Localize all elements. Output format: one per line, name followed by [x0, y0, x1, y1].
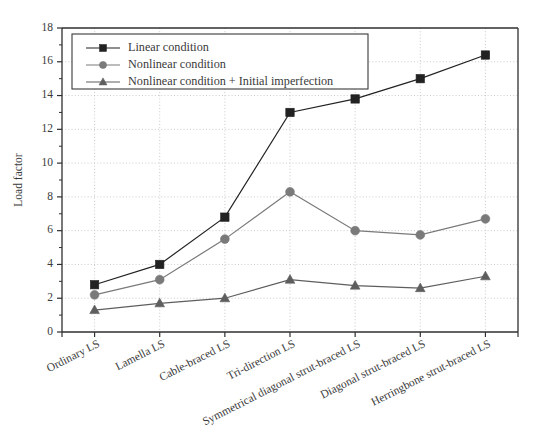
- y-tick-label: 4: [47, 257, 53, 269]
- y-tick-label: 0: [47, 325, 53, 337]
- data-point-marker: [90, 281, 98, 289]
- legend-label-3: Nonlinear condition + Initial imperfecti…: [128, 74, 333, 88]
- data-point-marker: [416, 74, 424, 82]
- data-point-marker: [100, 45, 107, 52]
- y-tick-label: 10: [42, 156, 54, 168]
- load-factor-line-chart: 024681012141618 Load factor Ordinary LSL…: [0, 0, 541, 440]
- data-point-marker: [481, 51, 489, 59]
- data-point-marker: [351, 95, 359, 103]
- legend-label-1: Linear condition: [128, 40, 209, 54]
- data-point-marker: [99, 61, 106, 68]
- data-point-marker: [155, 275, 164, 284]
- y-axis-title: Load factor: [12, 153, 24, 206]
- data-point-marker: [221, 213, 229, 221]
- data-point-marker: [90, 290, 99, 299]
- legend: Linear conditionNonlinear conditionNonli…: [72, 34, 368, 89]
- y-tick-label: 8: [47, 190, 53, 202]
- data-point-marker: [156, 260, 164, 268]
- y-tick-label: 2: [47, 291, 53, 303]
- y-tick-label: 14: [42, 88, 54, 100]
- chart-figure: 024681012141618 Load factor Ordinary LSL…: [0, 0, 541, 440]
- data-point-marker: [351, 226, 360, 235]
- data-point-marker: [481, 214, 490, 223]
- data-point-marker: [220, 235, 229, 244]
- y-tick-label: 12: [42, 122, 54, 134]
- legend-label-2: Nonlinear condition: [128, 57, 226, 71]
- data-point-marker: [286, 108, 294, 116]
- y-tick-label: 16: [42, 54, 54, 66]
- data-point-marker: [286, 187, 295, 196]
- y-tick-label: 18: [42, 21, 54, 33]
- data-point-marker: [416, 230, 425, 239]
- y-tick-label: 6: [47, 223, 53, 235]
